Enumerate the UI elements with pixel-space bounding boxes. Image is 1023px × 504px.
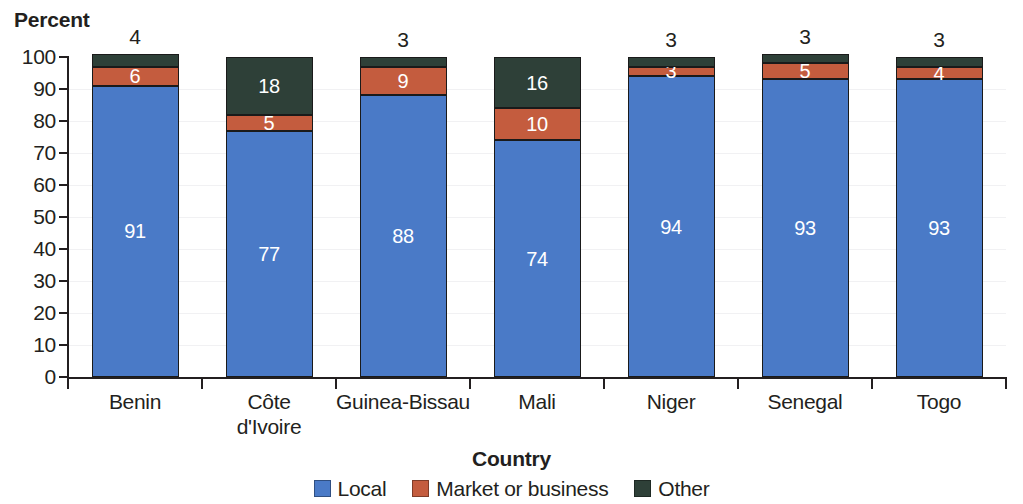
bar-segment-value-label: 6: [130, 66, 141, 86]
x-axis-tick: [67, 379, 69, 389]
bar-segment[interactable]: 10: [494, 108, 581, 140]
bar-segment[interactable]: 91: [92, 86, 179, 377]
bar-segment[interactable]: 6: [92, 67, 179, 86]
bar-segment-value-label: 93: [794, 218, 816, 238]
x-axis-title: Country: [0, 447, 1023, 471]
y-axis-tick: [59, 56, 68, 58]
x-axis-category-label-line: d'Ivoire: [194, 414, 344, 439]
bar-segment[interactable]: 94: [628, 76, 715, 377]
x-axis-line: [67, 377, 1007, 379]
x-axis-category-label-line: Togo: [864, 389, 1014, 414]
y-axis-tick-label-text: 40: [4, 238, 56, 259]
y-axis-tick-label-text: 30: [4, 270, 56, 291]
plot-area: 91677518889741016943935934: [68, 57, 1006, 377]
bar-column[interactable]: 916: [92, 54, 179, 377]
x-axis-tick: [737, 379, 739, 389]
y-axis-tick-label: 0: [0, 366, 56, 387]
y-axis-tick-label: 40: [0, 238, 56, 259]
y-axis-tick: [59, 248, 68, 250]
bar-column[interactable]: 889: [360, 57, 447, 377]
x-axis-category-label: Mali: [462, 389, 612, 414]
bar-segment[interactable]: 18: [226, 57, 313, 115]
x-axis-category-label-line: Niger: [596, 389, 746, 414]
legend-item-label: Other: [658, 478, 709, 499]
y-axis-tick-label-text: 50: [4, 206, 56, 227]
x-axis-category-label: Côted'Ivoire: [194, 389, 344, 439]
x-axis-category-label-line: Mali: [462, 389, 612, 414]
y-axis-tick-label-text: 80: [4, 110, 56, 131]
bar-outside-value-label: 4: [62, 26, 209, 47]
y-axis-tick-label-text: 70: [4, 142, 56, 163]
y-axis-tick-label: 100: [0, 46, 56, 67]
x-axis-tick: [335, 379, 337, 389]
x-axis-category-label: Togo: [864, 389, 1014, 414]
bar-segment-value-label: 77: [258, 244, 280, 264]
bar-segment[interactable]: 93: [762, 79, 849, 377]
y-axis-tick: [59, 312, 68, 314]
y-axis-tick-label: 80: [0, 110, 56, 131]
bar-segment[interactable]: 74: [494, 140, 581, 377]
bar-segment[interactable]: [92, 54, 179, 67]
x-axis-category-label: Benin: [60, 389, 210, 414]
legend-swatch-icon: [314, 480, 331, 497]
bar-segment-value-label: 16: [526, 73, 548, 93]
y-axis-tick-label-text: 10: [4, 334, 56, 355]
x-axis-category-label-line: Senegal: [730, 389, 880, 414]
y-axis-tick-label: 70: [0, 142, 56, 163]
y-axis-tick: [59, 184, 68, 186]
x-axis-category-label: Niger: [596, 389, 746, 414]
bar-outside-value-label: 3: [866, 29, 1013, 50]
bar-segment[interactable]: 88: [360, 95, 447, 377]
bar-segment-value-label: 5: [800, 61, 811, 81]
y-axis-tick-label-text: 60: [4, 174, 56, 195]
bar-segment-value-label: 10: [526, 114, 548, 134]
bar-outside-value-label: 3: [732, 26, 879, 47]
x-axis-category-label: Guinea-Bissau: [328, 389, 478, 414]
x-axis-tick: [871, 379, 873, 389]
bar-segment-value-label: 9: [398, 71, 409, 91]
bar-segment[interactable]: 9: [360, 67, 447, 96]
y-axis-tick-label: 30: [0, 270, 56, 291]
bar-column[interactable]: 934: [896, 57, 983, 377]
y-axis-tick: [59, 280, 68, 282]
y-axis-tick-label: 20: [0, 302, 56, 323]
bar-segment[interactable]: 5: [226, 115, 313, 131]
bar-segment[interactable]: [628, 57, 715, 67]
bar-segment-value-label: 74: [526, 249, 548, 269]
bar-segment[interactable]: 77: [226, 131, 313, 377]
bar-segment-value-label: 5: [264, 113, 275, 133]
bar-segment[interactable]: 5: [762, 63, 849, 79]
bar-segment[interactable]: 3: [628, 67, 715, 77]
legend-swatch-icon: [412, 480, 429, 497]
y-axis-tick: [59, 344, 68, 346]
legend-item[interactable]: Other: [634, 478, 709, 499]
bar-segment[interactable]: [360, 57, 447, 67]
legend-item[interactable]: Market or business: [412, 478, 608, 499]
bar-segment-value-label: 88: [392, 226, 414, 246]
y-axis-tick: [59, 376, 68, 378]
bar-segment[interactable]: 93: [896, 79, 983, 377]
y-axis-tick-label: 10: [0, 334, 56, 355]
bar-column[interactable]: 943: [628, 57, 715, 377]
chart-legend: LocalMarket or businessOther: [0, 478, 1023, 499]
legend-item[interactable]: Local: [314, 478, 387, 499]
bar-column[interactable]: 935: [762, 54, 849, 377]
stacked-bar-chart: Percent 1009080706050403020100 916775188…: [0, 0, 1023, 504]
x-axis-category-label-line: Côte: [194, 389, 344, 414]
bar-segment[interactable]: 4: [896, 67, 983, 80]
legend-item-label: Local: [338, 478, 387, 499]
bar-outside-value-label: 3: [598, 29, 745, 50]
bar-column[interactable]: 741016: [494, 57, 581, 377]
x-axis-tick: [603, 379, 605, 389]
y-axis-tick-label: 60: [0, 174, 56, 195]
bar-segment[interactable]: [762, 54, 849, 64]
bar-segment[interactable]: [896, 57, 983, 67]
bar-column[interactable]: 77518: [226, 57, 313, 377]
bar-segment-value-label: 93: [928, 218, 950, 238]
legend-swatch-icon: [634, 480, 651, 497]
y-axis-tick-label-text: 20: [4, 302, 56, 323]
bar-segment-value-label: 94: [660, 217, 682, 237]
bar-segment-value-label: 91: [124, 221, 146, 241]
y-axis-tick: [59, 88, 68, 90]
bar-segment[interactable]: 16: [494, 57, 581, 108]
